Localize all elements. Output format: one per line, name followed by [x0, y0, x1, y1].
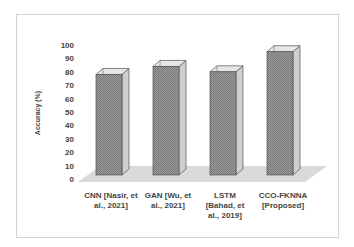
x-category-label-line: CCO-FKNNA: [251, 191, 315, 201]
y-tick-label: 30: [65, 135, 74, 144]
x-category-label-line: GAN [Wu, et: [136, 191, 200, 201]
bar: [153, 60, 186, 175]
y-axis: 0102030405060708090100: [61, 41, 75, 184]
bar: [267, 46, 300, 175]
y-tick-label: 40: [65, 121, 74, 130]
y-axis-label: Accuracy (%): [34, 91, 42, 135]
x-category-label: GAN [Wu, etal., 2021]: [136, 191, 200, 211]
x-category-label: LSTM[Bahad, etal., 2019]: [193, 191, 257, 221]
y-tick-label: 100: [61, 41, 75, 50]
bars: [96, 46, 300, 175]
bar: [96, 68, 129, 175]
y-tick-label: 60: [65, 95, 74, 104]
x-category-label-line: al., 2021]: [79, 201, 143, 211]
y-tick-label: 70: [65, 81, 74, 90]
x-category-label: CNN [Nasir, etal., 2021]: [79, 191, 143, 211]
y-tick-label: 80: [65, 68, 74, 77]
y-tick-label: 10: [65, 162, 74, 171]
y-tick-label: 0: [70, 175, 75, 184]
x-category-label: CCO-FKNNA[Proposed]: [251, 191, 315, 211]
x-category-label-line: CNN [Nasir, et: [79, 191, 143, 201]
x-category-label-line: al., 2021]: [136, 201, 200, 211]
y-tick-label: 50: [65, 108, 74, 117]
bar: [210, 66, 243, 175]
x-category-label-line: LSTM: [193, 191, 257, 201]
y-tick-label: 20: [65, 148, 74, 157]
x-category-label-line: [Proposed]: [251, 201, 315, 211]
x-category-label-line: [Bahad, et: [193, 201, 257, 211]
y-tick-label: 90: [65, 54, 74, 63]
x-category-label-line: al., 2019]: [193, 211, 257, 221]
